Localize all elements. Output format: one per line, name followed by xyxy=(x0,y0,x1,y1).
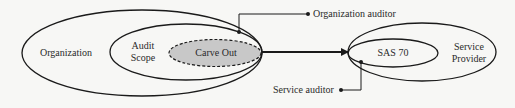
organization-auditor-connector xyxy=(237,12,310,34)
service-provider-line1: Service xyxy=(446,41,492,53)
service-provider-label: Service Provider xyxy=(446,41,492,65)
diagram-canvas: Organization Audit Scope Carve Out SAS 7… xyxy=(0,0,515,108)
service-auditor-connector xyxy=(339,60,363,92)
carve-out-label: Carve Out xyxy=(180,47,252,59)
service-provider-line2: Provider xyxy=(446,53,492,65)
organization-label: Organization xyxy=(40,47,92,59)
sas70-label: SAS 70 xyxy=(368,47,418,59)
audit-scope-label: Audit Scope xyxy=(123,40,163,64)
audit-scope-line1: Audit xyxy=(123,40,163,52)
service-auditor-label: Service auditor xyxy=(273,84,334,96)
organization-auditor-label: Organization auditor xyxy=(313,8,396,20)
audit-scope-line2: Scope xyxy=(123,52,163,64)
